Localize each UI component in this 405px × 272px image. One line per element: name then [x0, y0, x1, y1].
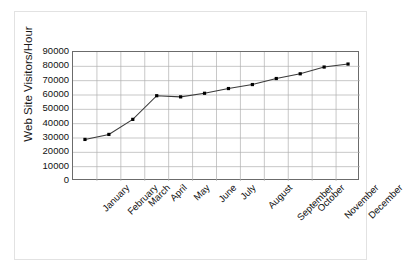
y-axis-tick-label: 20000 — [36, 146, 69, 156]
vertical-gridlines — [97, 52, 336, 181]
plot-svg — [73, 52, 360, 181]
data-point-marker — [203, 92, 206, 95]
y-axis-tick-label: 30000 — [36, 132, 69, 142]
y-axis-tick-label: 40000 — [36, 118, 69, 128]
plot-area — [72, 51, 359, 180]
data-point-marker — [323, 65, 326, 68]
y-axis-tick-label: 70000 — [36, 75, 69, 85]
y-axis-tick-label: 90000 — [36, 46, 69, 56]
data-point-marker — [131, 118, 134, 121]
data-point-marker — [227, 87, 230, 90]
y-axis-tick-labels: 0100002000030000400005000060000700008000… — [36, 44, 69, 188]
data-point-marker — [275, 77, 278, 80]
data-point-marker — [83, 138, 86, 141]
x-axis-tick-label: May — [191, 182, 211, 202]
y-axis-tick-label: 0 — [36, 175, 69, 185]
y-axis-tick-label: 60000 — [36, 89, 69, 99]
x-axis-tick-label: June — [216, 182, 238, 204]
data-point-marker — [251, 83, 254, 86]
y-axis-tick-label: 50000 — [36, 103, 69, 113]
x-axis-tick-label: July — [238, 182, 258, 202]
data-point-marker — [179, 95, 182, 98]
data-point-marker — [299, 72, 302, 75]
data-point-marker — [346, 62, 349, 65]
y-axis-title: Web Site Visitors/Hour — [22, 4, 34, 164]
x-axis-tick-labels: JanuaryFebruaryMarchAprilMayJuneJulyAugu… — [72, 182, 372, 262]
x-axis-tick-label: April — [167, 182, 188, 203]
y-axis-tick-label: 80000 — [36, 60, 69, 70]
x-axis-tick-label: August — [266, 182, 295, 211]
data-point-marker — [155, 94, 158, 97]
data-point-marker — [107, 133, 110, 136]
y-axis-tick-label: 10000 — [36, 161, 69, 171]
